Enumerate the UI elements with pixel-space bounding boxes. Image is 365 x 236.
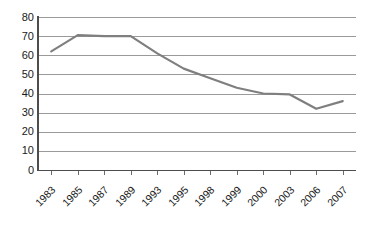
series-1-polyline xyxy=(51,35,343,109)
line-chart: 80706050403020100 1983198519871989199319… xyxy=(0,0,365,236)
data-line-series xyxy=(0,0,365,236)
